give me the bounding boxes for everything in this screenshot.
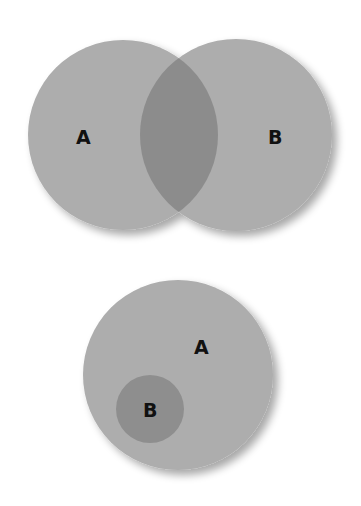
superset-a-label: A	[194, 336, 209, 358]
superset-a-circle	[83, 280, 273, 470]
subset-b-label: B	[143, 399, 157, 421]
venn-diagrams: A B A B	[0, 0, 361, 506]
subset-venn	[83, 280, 273, 470]
set-b-label: B	[268, 126, 282, 148]
set-a-label: A	[76, 126, 91, 148]
